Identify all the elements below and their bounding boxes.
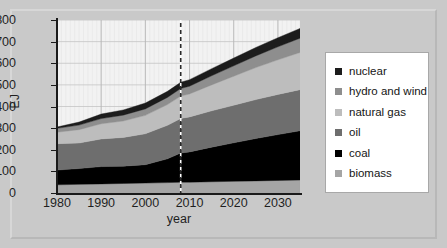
legend-swatch-icon [335, 68, 342, 75]
x-axis-line [56, 193, 302, 195]
legend-item-label: natural gas [349, 107, 406, 119]
y-tick-mark [51, 42, 56, 43]
legend-item-biomass[interactable]: biomass [326, 164, 428, 185]
legend-item-label: nuclear [349, 66, 387, 78]
y-tick-label: 500 [0, 79, 16, 92]
y-tick-label: 300 [0, 122, 16, 135]
y-tick-mark [51, 193, 56, 194]
legend-swatch-icon [335, 88, 342, 95]
legend-swatch-icon [335, 150, 342, 157]
legend: nuclearhydro and windnatural gasoilcoalb… [325, 52, 429, 193]
plot-area [57, 20, 300, 193]
y-tick-mark [51, 63, 56, 64]
legend-swatch-icon [335, 129, 342, 136]
y-tick-label: 100 [0, 165, 16, 178]
legend-item-label: oil [349, 127, 361, 139]
y-tick-mark [51, 150, 56, 151]
y-tick-label: 700 [0, 36, 16, 49]
y-axis-line [56, 18, 58, 195]
y-tick-label: 0 [0, 187, 16, 200]
y-axis-title: EJ [8, 93, 22, 108]
legend-item-hydro-and-wind[interactable]: hydro and wind [326, 82, 428, 103]
legend-item-label: hydro and wind [349, 86, 427, 98]
y-tick-label: 600 [0, 57, 16, 70]
legend-swatch-icon [335, 170, 342, 177]
legend-item-label: coal [349, 148, 370, 160]
y-tick-mark [51, 20, 56, 21]
stacked-area-svg [57, 20, 300, 193]
legend-item-nuclear[interactable]: nuclear [326, 61, 428, 82]
y-tick-mark [51, 85, 56, 86]
legend-item-oil[interactable]: oil [326, 123, 428, 144]
legend-swatch-icon [335, 109, 342, 116]
y-tick-mark [51, 128, 56, 129]
y-tick-mark [51, 107, 56, 108]
legend-item-natural-gas[interactable]: natural gas [326, 102, 428, 123]
legend-item-coal[interactable]: coal [326, 143, 428, 164]
y-tick-label: 200 [0, 144, 16, 157]
y-tick-label: 800 [0, 14, 16, 27]
legend-item-label: biomass [349, 168, 392, 180]
chart-area: 0100200300400500600700800 19801990200020… [20, 12, 305, 227]
x-tick-label: 2030 [248, 197, 308, 210]
y-tick-mark [51, 171, 56, 172]
x-axis-title: year [56, 212, 302, 226]
figure-container: 0100200300400500600700800 19801990200020… [0, 0, 447, 248]
